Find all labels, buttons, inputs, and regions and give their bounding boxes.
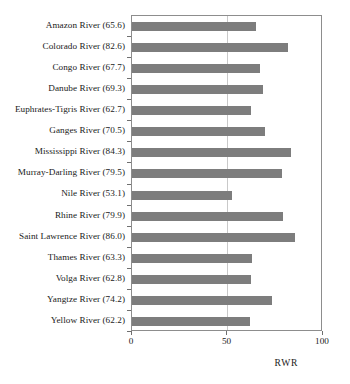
bar-row — [132, 58, 321, 79]
bar — [132, 148, 291, 157]
x-axis-tick-label: 100 — [315, 337, 329, 346]
y-axis-label: Congo River (67.7) — [52, 57, 125, 78]
bar-row — [132, 163, 321, 184]
y-axis-label: Rhine River (79.9) — [55, 205, 125, 226]
y-axis-label: Saint Lawrence River (86.0) — [19, 226, 125, 247]
bar — [132, 296, 272, 305]
bar — [132, 127, 265, 136]
bar-row — [132, 290, 321, 311]
bar-row — [132, 37, 321, 58]
y-axis-label: Volga River (62.8) — [56, 268, 125, 289]
bar — [132, 43, 288, 52]
bar-chart: Amazon River (65.6)Colorado River (82.6)… — [0, 0, 350, 384]
bar-row — [132, 121, 321, 142]
bar-row — [132, 248, 321, 269]
bar — [132, 233, 295, 242]
x-axis-tick-label: 0 — [129, 337, 134, 346]
y-axis-label: Colorado River (82.6) — [43, 36, 125, 57]
y-axis-label: Thames River (63.3) — [48, 247, 125, 268]
x-axis-tick-label: 50 — [222, 337, 231, 346]
bar-row — [132, 185, 321, 206]
plot-area — [131, 15, 322, 331]
y-axis-label: Yangtze River (74.2) — [47, 289, 125, 310]
y-axis-label: Murray-Darling River (79.5) — [18, 162, 125, 183]
x-axis-tick-labels: 050100 — [131, 337, 322, 350]
x-axis-title: RWR — [0, 358, 322, 368]
bar-row — [132, 142, 321, 163]
y-axis-label: Euphrates-Tigris River (62.7) — [15, 99, 125, 120]
bar — [132, 275, 251, 284]
x-axis-tick — [226, 331, 227, 335]
bar-row — [132, 16, 321, 37]
x-axis-tick — [131, 331, 132, 335]
bar-row — [132, 269, 321, 290]
bar — [132, 191, 232, 200]
bar — [132, 64, 260, 73]
bar-row — [132, 206, 321, 227]
bar — [132, 106, 251, 115]
bar — [132, 254, 252, 263]
bar-row — [132, 311, 321, 332]
bar-row — [132, 227, 321, 248]
bar — [132, 317, 250, 326]
y-axis-category-labels: Amazon River (65.6)Colorado River (82.6)… — [0, 15, 125, 331]
bar — [132, 22, 256, 31]
bar-row — [132, 100, 321, 121]
bar — [132, 85, 263, 94]
y-axis-label: Danube River (69.3) — [48, 78, 125, 99]
bar-row — [132, 79, 321, 100]
y-axis-label: Mississippi River (84.3) — [35, 141, 125, 162]
x-axis-tick — [322, 331, 323, 335]
y-axis-label: Yellow River (62.2) — [51, 310, 125, 331]
bar — [132, 212, 283, 221]
y-axis-label: Ganges River (70.5) — [49, 120, 125, 141]
y-axis-label: Amazon River (65.6) — [46, 15, 125, 36]
bar — [132, 169, 282, 178]
y-axis-label: Nile River (53.1) — [61, 184, 125, 205]
